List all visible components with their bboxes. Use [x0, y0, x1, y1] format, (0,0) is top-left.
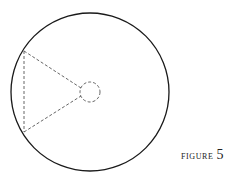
inner-dashed-circle	[80, 82, 100, 102]
figure-caption: FIGURE5	[181, 144, 224, 163]
caption-number: 5	[217, 147, 224, 162]
upper-dashed-line	[24, 51, 81, 88]
lower-dashed-line	[24, 96, 81, 132]
outer-circle	[11, 13, 169, 171]
caption-word: FIGURE	[181, 152, 214, 161]
